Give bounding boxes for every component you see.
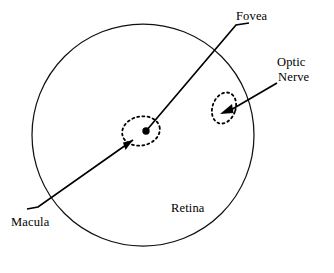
fovea-dot — [142, 127, 149, 134]
label-fovea: Fovea — [236, 9, 267, 24]
label-macula: Macula — [11, 215, 49, 230]
optic-nerve-leader-line — [229, 83, 277, 111]
retina-diagram-canvas — [0, 0, 334, 273]
label-optic-nerve: OpticNerve — [277, 55, 309, 85]
fovea-leader-line — [146, 23, 249, 131]
retina-diagram: Fovea OpticNerve Macula Retina — [0, 0, 334, 273]
optic-nerve-arrowhead — [220, 104, 234, 114]
label-optic-nerve-line2: Nerve — [278, 70, 309, 85]
macula-leader-line — [27, 140, 133, 209]
label-retina: Retina — [171, 201, 205, 216]
retina-circle — [32, 24, 254, 246]
label-optic-nerve-line1: Optic — [277, 55, 306, 69]
